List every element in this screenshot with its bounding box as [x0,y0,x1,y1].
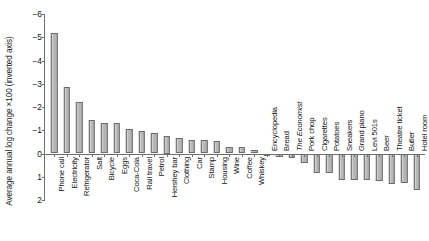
bar[interactable] [76,102,82,153]
x-tick-mark [67,154,68,157]
category-label: Hotel room [420,114,429,150]
bar[interactable] [126,129,132,153]
plot-area: Phone callElectricityRefrigeratorSaltBic… [44,14,425,200]
category-label: The Economist [295,101,304,150]
y-tick-label: −3 [20,79,42,89]
y-tick-label: −5 [20,32,42,42]
bar-slot[interactable] [323,14,336,200]
bar-slot[interactable] [411,14,424,200]
category-label: Salt [95,157,104,170]
category-label: Refrigerator [82,157,91,196]
bar[interactable] [201,140,207,154]
category-label: Petrol [157,157,166,176]
category-label: Encyclopedia [270,107,279,151]
bar[interactable] [364,154,370,181]
x-tick-mark [179,154,180,157]
bar[interactable] [139,131,145,153]
x-tick-mark [304,154,305,157]
y-tick-mark [42,200,45,201]
category-label: Butler [407,131,416,150]
y-tick-label: 2 [20,195,42,205]
bar[interactable] [64,87,70,153]
category-label: Coca-Cola [132,157,141,192]
category-label: Sneakers [345,119,354,150]
category-label: Electricity [70,157,79,188]
bar[interactable] [401,154,407,183]
x-tick-mark [79,154,80,157]
bar-slot[interactable] [336,14,349,200]
y-tick-label: −4 [20,56,42,66]
category-label: Wine [232,157,241,174]
category-label: Stamp [207,157,216,178]
bar[interactable] [101,123,107,153]
x-tick-mark [367,154,368,157]
bar[interactable] [114,123,120,153]
bar[interactable] [351,154,357,180]
y-axis-title: Average annual log change ×100 (inverted… [0,0,18,241]
x-tick-mark [154,154,155,157]
category-label: Bread [282,131,291,151]
bar[interactable] [239,147,245,154]
x-tick-mark [167,154,168,157]
x-tick-mark [204,154,205,157]
bar-slot[interactable] [348,14,361,200]
x-tick-mark [342,154,343,157]
x-tick-mark [329,154,330,157]
bar[interactable] [414,154,420,190]
category-label: Cigarettes [320,117,329,151]
x-tick-mark [242,154,243,157]
category-label: Levi 501s [370,119,379,151]
x-tick-mark [379,154,380,157]
bar[interactable] [389,154,395,184]
category-label: Beer [382,135,391,151]
x-tick-mark [142,154,143,157]
category-label: Housing [220,157,229,184]
y-tick-label: 0 [20,149,42,159]
bar[interactable] [189,140,195,154]
x-tick-mark [229,154,230,157]
x-tick-mark [354,154,355,157]
x-tick-mark [192,154,193,157]
bar[interactable] [176,138,182,153]
x-tick-mark [292,154,293,157]
category-label: Pork chop [307,117,316,150]
category-label: Eggs [120,157,129,174]
x-tick-mark [279,154,280,157]
x-tick-mark [317,154,318,157]
x-tick-mark [267,154,268,157]
x-tick-mark [54,154,55,157]
x-tick-mark [217,154,218,157]
category-label: Whiskey [257,157,266,185]
category-label: Car [195,157,204,169]
y-tick-label: 1 [20,172,42,182]
bar-slot[interactable] [361,14,374,200]
bar[interactable] [214,141,220,154]
bar[interactable] [151,133,157,154]
category-label: Grand piano [357,110,366,151]
bar[interactable] [376,154,382,182]
x-tick-mark [417,154,418,157]
y-axis-ticks: −6−5−4−3−2−1012 [18,0,42,241]
bar[interactable] [339,154,345,180]
bar[interactable] [164,136,170,153]
x-tick-mark [117,154,118,157]
x-tick-mark [92,154,93,157]
y-tick-label: −1 [20,125,42,135]
y-tick-label: −6 [20,9,42,19]
category-label: Rail travel [145,157,154,190]
y-axis-line [44,14,45,200]
y-tick-label: −2 [20,102,42,112]
category-label: Coffee [245,157,254,179]
x-tick-mark [254,154,255,157]
category-label: Clothing [182,157,191,184]
category-label: Theatre ticket [395,106,404,151]
x-tick-mark [392,154,393,157]
bar[interactable] [51,33,57,154]
bar[interactable] [89,120,95,154]
x-tick-mark [404,154,405,157]
bar-slot[interactable] [373,14,386,200]
x-tick-mark [129,154,130,157]
bar-slot[interactable] [311,14,324,200]
chart-figure: Average annual log change ×100 (inverted… [0,0,429,241]
bar[interactable] [226,147,232,154]
